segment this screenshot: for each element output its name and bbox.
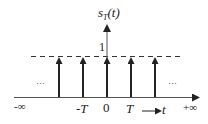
plus-infinity-label: +∞ — [183, 101, 197, 113]
amplitude-label: 1 — [99, 40, 105, 54]
ellipsis-right: ··· — [168, 78, 177, 88]
tick-label-minus-T: -T — [76, 101, 88, 116]
x-variable-label: t — [162, 102, 166, 117]
minus-infinity-label: -∞ — [14, 100, 26, 112]
tick-label-zero: 0 — [103, 100, 110, 115]
impulses — [59, 59, 155, 97]
ellipsis-left: ··· — [36, 78, 45, 88]
tick-label-T: T — [126, 101, 134, 116]
impulse-train-diagram: sT(t) 1 ··· ··· -∞ +∞ -T 0 T t — [0, 0, 208, 124]
y-axis-label: sT(t) — [98, 5, 120, 22]
